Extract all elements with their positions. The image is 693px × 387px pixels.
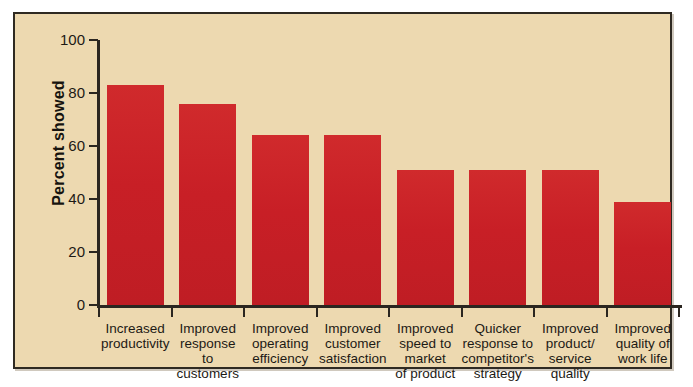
x-category-label-line: Quicker [462,321,535,336]
y-axis-line [97,40,100,308]
x-category-label-line: Improved [172,321,245,336]
x-category-label: Improvedoperatingefficiency [244,321,317,366]
y-tick-label-text: 40 [41,191,85,206]
y-tick-label: 60 [37,138,85,154]
x-tick-mark [316,308,318,317]
bar [107,85,164,305]
x-category-label-line: Improved [389,321,462,336]
x-category-label-line: quality of [607,336,680,351]
x-category-label-line: efficiency [244,351,317,366]
x-category-label-line: of product [389,366,462,381]
x-category-label: Improvedquality ofwork life [607,321,680,366]
x-category-label-line: operating [244,336,317,351]
x-category-label-line: Improved [317,321,390,336]
bar [252,135,309,305]
y-tick-label: 40 [37,191,85,207]
y-tick-label-text: 60 [41,138,85,153]
chart-panel: Percent showed 020406080100 Increasedpro… [13,12,672,369]
bar [179,104,236,305]
x-tick-mark [243,308,245,317]
x-tick-mark [678,308,680,317]
bar [542,170,599,305]
bar [324,135,381,305]
x-category-label-line: competitor's [462,351,535,366]
x-category-label-line: response [172,336,245,351]
x-category-label-line: response to [462,336,535,351]
x-category-label-line: to [172,351,245,366]
y-tick-label: 0 [37,297,85,313]
y-tick-mark [89,251,98,253]
x-tick-mark [388,308,390,317]
x-category-label-line: service [534,351,607,366]
x-category-label-line: productivity [99,336,172,351]
x-tick-mark [533,308,535,317]
x-category-label-line: product/ [534,336,607,351]
x-tick-mark [171,308,173,317]
x-category-label: Improvedcustomersatisfaction [317,321,390,366]
x-category-label: Quickerresponse tocompetitor'sstrategy [462,321,535,381]
y-tick-mark [89,39,98,41]
y-tick-mark [89,92,98,94]
y-tick-label-text: 0 [41,297,85,312]
y-tick-mark [89,145,98,147]
x-tick-mark-origin [98,308,100,317]
y-tick-label: 80 [37,85,85,101]
x-category-label-line: customer [317,336,390,351]
chart-figure: Percent showed 020406080100 Increasedpro… [0,0,693,387]
x-category-label-line: Increased [99,321,172,336]
y-tick-mark [89,304,98,306]
x-category-label: Increasedproductivity [99,321,172,351]
x-category-label: Improvedspeed tomarketof product [389,321,462,381]
x-tick-mark [606,308,608,317]
x-category-label-line: Improved [534,321,607,336]
y-tick-label-text: 80 [41,85,85,100]
x-category-label-line: customers [172,366,245,381]
x-category-label-line: market [389,351,462,366]
x-category-label-line: Improved [244,321,317,336]
x-category-label-line: Improved [607,321,680,336]
y-tick-label: 100 [37,32,85,48]
bar [614,202,671,305]
y-tick-mark [89,198,98,200]
x-category-label: Improvedproduct/servicequality [534,321,607,381]
y-tick-label-text: 20 [41,244,85,259]
x-tick-mark [461,308,463,317]
bar [397,170,454,305]
x-category-label-line: strategy [462,366,535,381]
x-category-label-line: speed to [389,336,462,351]
x-category-label: Improvedresponsetocustomers [172,321,245,381]
y-tick-label: 20 [37,244,85,260]
x-category-label-line: satisfaction [317,351,390,366]
bar [469,170,526,305]
x-category-label-line: work life [607,351,680,366]
x-category-label-line: quality [534,366,607,381]
y-tick-label-text: 100 [41,32,85,47]
